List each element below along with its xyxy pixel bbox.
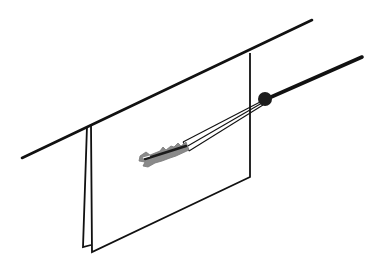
guide-lines — [183, 101, 263, 151]
diagram-canvas: Wall anchor installation illustration — [0, 0, 381, 268]
top-line — [22, 20, 312, 158]
illustration — [0, 0, 381, 268]
ball-joint — [258, 92, 272, 106]
rod — [262, 57, 362, 101]
anchor — [139, 142, 189, 167]
